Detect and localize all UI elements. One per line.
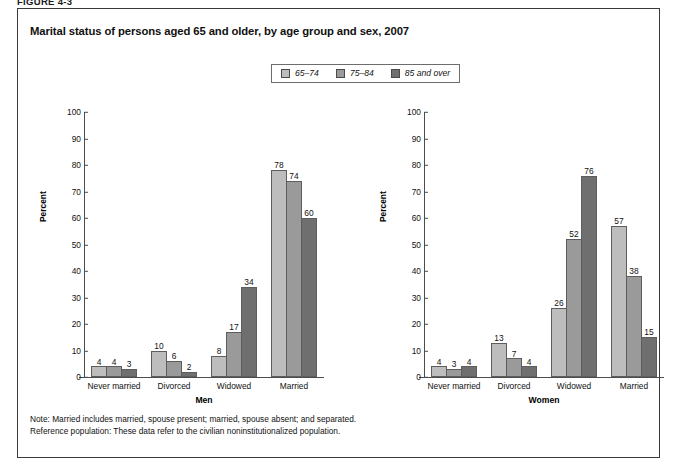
- bar-value-label: 38: [629, 267, 638, 275]
- y-axis-tick-label: 70: [412, 187, 424, 195]
- bar[interactable]: 3: [121, 369, 137, 377]
- bar[interactable]: 26: [551, 308, 567, 377]
- bar-value-label: 17: [229, 323, 238, 331]
- chart-men: Percent010203040506070809010044310628173…: [40, 104, 330, 392]
- y-axis-tick-label: 40: [412, 267, 424, 275]
- y-axis-tick: 20: [72, 320, 84, 328]
- y-axis-tick-label: 60: [412, 214, 424, 222]
- bar-value-label: 78: [274, 161, 283, 169]
- y-axis-tick: 0: [76, 373, 84, 381]
- bar-groups: 443106281734787460: [84, 112, 324, 377]
- note-line: Note: Married includes married, spouse p…: [30, 414, 356, 426]
- figure-notes: Note: Married includes married, spouse p…: [30, 414, 356, 438]
- figure-number: FIGURE 4-3: [17, 0, 72, 7]
- y-axis-tick-label: 70: [72, 187, 84, 195]
- bar-value-label: 4: [467, 358, 472, 366]
- y-axis-tick: 70: [72, 187, 84, 195]
- y-axis-tick: 80: [412, 161, 424, 169]
- y-axis-tick-label: 20: [412, 320, 424, 328]
- bar[interactable]: 60: [301, 218, 317, 377]
- bar-group: 81734: [204, 112, 264, 377]
- bar-value-label: 13: [494, 334, 503, 342]
- y-axis-tick: 10: [412, 346, 424, 354]
- y-axis-tick-label: 80: [72, 161, 84, 169]
- bar-value-label: 6: [172, 352, 177, 360]
- bar[interactable]: 13: [491, 343, 507, 377]
- y-axis-tick-label: 90: [72, 134, 84, 142]
- bar[interactable]: 78: [271, 170, 287, 377]
- x-axis-tick-label: Married: [604, 381, 664, 391]
- legend-swatch-icon: [281, 69, 290, 78]
- y-axis-tick: 60: [412, 214, 424, 222]
- y-axis-tick-label: 10: [72, 346, 84, 354]
- bar[interactable]: 4: [431, 366, 447, 377]
- y-axis-tick-label: 30: [72, 293, 84, 301]
- bar-groups: 4341374265276573815: [424, 112, 664, 377]
- x-axis-labels: Never marriedDivorcedWidowedMarried: [424, 381, 664, 391]
- x-axis-tick-label: Never married: [84, 381, 144, 391]
- x-axis-tick-label: Widowed: [544, 381, 604, 391]
- bar-group: 787460: [264, 112, 324, 377]
- chart-women: Percent010203040506070809010043413742652…: [380, 104, 670, 392]
- bar[interactable]: 4: [461, 366, 477, 377]
- bar-group: 265276: [544, 112, 604, 377]
- x-axis-line: [79, 377, 324, 378]
- bar-group: 434: [424, 112, 484, 377]
- legend-item: 85 and over: [391, 68, 450, 78]
- bar-value-label: 3: [127, 360, 132, 368]
- bar-value-label: 4: [527, 358, 532, 366]
- y-axis-tick: 50: [72, 240, 84, 248]
- legend-swatch-icon: [391, 69, 400, 78]
- bar[interactable]: 17: [226, 332, 242, 377]
- bar-value-label: 8: [217, 347, 222, 355]
- bar[interactable]: 52: [566, 239, 582, 377]
- bar[interactable]: 4: [521, 366, 537, 377]
- y-axis-tick-label: 40: [72, 267, 84, 275]
- y-axis-tick-label: 90: [412, 134, 424, 142]
- legend-item: 65–74: [281, 68, 319, 78]
- bar[interactable]: 3: [446, 369, 462, 377]
- bar[interactable]: 15: [641, 337, 657, 377]
- bar-value-label: 4: [112, 358, 117, 366]
- y-axis-tick: 100: [67, 108, 84, 116]
- bar[interactable]: 8: [211, 356, 227, 377]
- legend-item: 75–84: [336, 68, 374, 78]
- bar-group: 443: [84, 112, 144, 377]
- y-axis-tick-label: 100: [407, 108, 424, 116]
- x-axis-tick-label: Married: [264, 381, 324, 391]
- bar[interactable]: 34: [241, 287, 257, 377]
- x-axis-tick-label: Divorced: [144, 381, 204, 391]
- bar-group: 1062: [144, 112, 204, 377]
- axis-area: 0102030405060708090100443106281734787460: [84, 112, 324, 377]
- y-axis-label: Percent: [38, 191, 48, 222]
- bar[interactable]: 10: [151, 351, 167, 378]
- y-axis-tick-label: 0: [416, 373, 424, 381]
- legend-label: 75–84: [350, 68, 374, 78]
- y-axis-tick: 40: [72, 267, 84, 275]
- bar[interactable]: 2: [181, 372, 197, 377]
- bar[interactable]: 38: [626, 276, 642, 377]
- y-axis-tick-label: 10: [412, 346, 424, 354]
- bar[interactable]: 7: [506, 358, 522, 377]
- bar-value-label: 10: [154, 342, 163, 350]
- y-axis-tick-label: 50: [412, 240, 424, 248]
- bar[interactable]: 6: [166, 361, 182, 377]
- bar-value-label: 2: [187, 363, 192, 371]
- bar[interactable]: 57: [611, 226, 627, 377]
- y-axis-tick-label: 0: [76, 373, 84, 381]
- bar[interactable]: 4: [106, 366, 122, 377]
- y-axis-label: Percent: [378, 191, 388, 222]
- x-axis-line: [419, 377, 664, 378]
- bar-value-label: 76: [584, 167, 593, 175]
- y-axis-tick: 30: [412, 293, 424, 301]
- plot-area: Percent010203040506070809010044310628173…: [40, 104, 330, 392]
- bar[interactable]: 4: [91, 366, 107, 377]
- y-axis-tick-label: 80: [412, 161, 424, 169]
- plot-area: Percent010203040506070809010043413742652…: [380, 104, 670, 392]
- bar[interactable]: 76: [581, 176, 597, 377]
- x-axis-tick-label: Widowed: [204, 381, 264, 391]
- note-line: Reference population: These data refer t…: [30, 426, 356, 438]
- bar-value-label: 3: [452, 360, 457, 368]
- chart-title: Marital status of persons aged 65 and ol…: [30, 25, 409, 37]
- bar[interactable]: 74: [286, 181, 302, 377]
